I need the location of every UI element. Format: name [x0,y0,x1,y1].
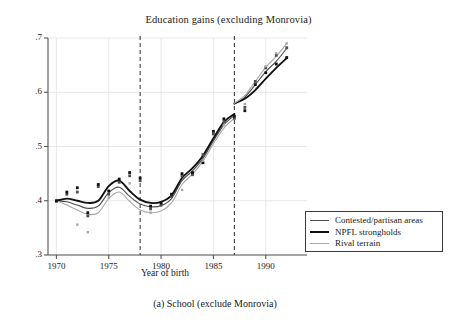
legend-swatch-line [310,220,329,221]
scatter-point [181,172,184,175]
scatter-point [86,215,89,218]
legend-label: Rival terrain [335,238,380,249]
scatter-point [76,186,79,189]
scatter-point [149,211,151,213]
scatter-point [97,183,100,186]
scatter-point [107,193,110,196]
scatter-point [86,211,89,214]
scatter-point [223,120,226,123]
scatter-point [107,190,110,193]
scatter-point [139,177,142,180]
line-contested-partisan-areas-pre1987 [56,116,234,209]
scatter-point [244,103,246,105]
figure-school-exclude-monrovia: Education gains (excluding Monrovia) Yea… [0,0,457,328]
chart-plot-area [0,0,457,328]
legend-label: NPFL strongholds [335,227,401,238]
scatter-point [128,174,131,177]
legend-swatch-line [310,231,329,233]
scatter-point [223,117,226,120]
x-tick-label: 1980 [141,261,181,271]
scatter-point [191,171,194,174]
scatter-point [286,42,288,44]
scatter-point [160,202,163,205]
legend-label: Contested/partisan areas [335,215,423,226]
scatter-point [265,65,267,67]
scatter-point [243,106,246,109]
scatter-point [149,205,152,208]
scatter-point [254,83,257,86]
x-tick-label: 1970 [36,261,76,271]
scatter-point [139,179,142,182]
line-npfl-strongholds-pre1987 [56,114,234,203]
legend-item: Contested/partisan areas [310,215,437,227]
x-tick-label: 1985 [193,261,233,271]
scatter-point [275,52,277,54]
scatter-point [55,199,58,202]
scatter-point [212,133,215,136]
scatter-point [264,71,267,74]
scatter-point [118,178,121,181]
chart-legend: Contested/partisan areasNPFL strongholds… [305,211,443,252]
figure-caption: (a) School (exclude Monrovia) [0,298,430,309]
line-npfl-strongholds-post1987 [234,58,286,103]
scatter-point [76,223,78,225]
scatter-point [223,124,225,126]
scatter-point [181,189,183,191]
legend-item: NPFL strongholds [310,227,437,239]
scatter-point [254,80,257,83]
line-rival-terrain-pre1987 [56,118,234,214]
x-tick-label: 1975 [89,261,129,271]
scatter-point [108,196,110,198]
scatter-point [149,207,152,210]
y-tick-label: .4 [22,195,42,205]
legend-item: Rival terrain [310,238,437,250]
y-tick-label: .6 [22,86,42,96]
scatter-point [128,171,131,174]
scatter-point [285,56,288,59]
scatter-point [170,193,173,196]
line-contested-partisan-areas-post1987 [234,48,286,104]
y-tick-label: .7 [22,32,42,42]
scatter-point [87,231,89,233]
scatter-point [128,182,130,184]
scatter-point [233,115,236,118]
legend-swatch-line [310,243,329,244]
line-rival-terrain-post1987 [234,43,286,103]
scatter-point [118,181,121,184]
scatter-point [202,153,205,156]
scatter-point [285,46,288,49]
y-tick-label: .3 [22,249,42,259]
scatter-point [65,191,68,194]
scatter-point [76,191,79,194]
scatter-point [212,130,215,133]
y-tick-label: .5 [22,141,42,151]
scatter-point [202,159,204,161]
x-tick-label: 1990 [246,261,286,271]
scatter-point [275,63,278,66]
scatter-point [243,109,246,112]
